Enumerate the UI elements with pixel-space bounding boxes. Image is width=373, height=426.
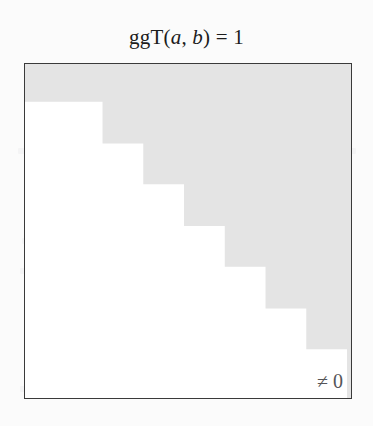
matrix-box: ≠ 0: [24, 63, 352, 399]
title-separator: ,: [181, 25, 192, 49]
staircase-shaded-region: [25, 64, 351, 398]
title-suffix: ) = 1: [203, 25, 244, 49]
title-variable-b: b: [192, 25, 203, 49]
not-equal-zero-label: ≠ 0: [317, 370, 343, 392]
title-prefix: ggT(: [129, 25, 171, 49]
figure-title: ggT(a, b) = 1: [0, 24, 373, 50]
figure-ggt-matrix: ggT(a, b) = 1 ≠ 0: [0, 0, 373, 426]
title-variable-a: a: [171, 25, 182, 49]
